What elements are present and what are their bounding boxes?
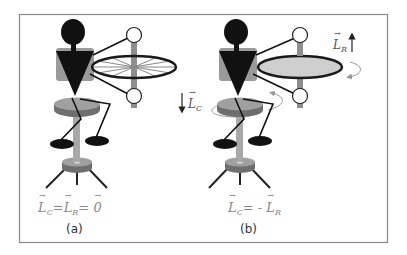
left-foot — [50, 139, 74, 149]
lower-hand — [127, 89, 142, 104]
lc-symbol: L — [188, 97, 196, 111]
lr-subscript: R — [341, 45, 347, 54]
lower-hand — [293, 89, 308, 104]
equation-b: LC= - LR — [228, 200, 281, 217]
eq-a-lr: L — [64, 200, 73, 215]
right-foot — [248, 136, 272, 146]
eq-a-lc: L — [38, 200, 47, 215]
head — [61, 19, 85, 45]
eq-b-lr: L — [266, 200, 275, 215]
left-foot — [213, 139, 237, 149]
lr-symbol: L — [333, 38, 341, 52]
lc-label: LC — [188, 97, 202, 113]
eq-a-zero: 0 — [93, 200, 101, 215]
equation-a: LC=LR= 0 — [38, 200, 102, 217]
lr-label: LR — [333, 38, 347, 54]
upper-hand — [293, 28, 308, 43]
spinning-wheel — [258, 56, 342, 78]
caption-a: (a) — [66, 222, 83, 236]
caption-b: (b) — [240, 222, 257, 236]
lc-subscript: C — [196, 104, 202, 113]
head — [224, 19, 248, 45]
upper-hand — [127, 28, 142, 43]
eq-b-lc: L — [228, 200, 237, 215]
right-foot — [85, 136, 109, 146]
